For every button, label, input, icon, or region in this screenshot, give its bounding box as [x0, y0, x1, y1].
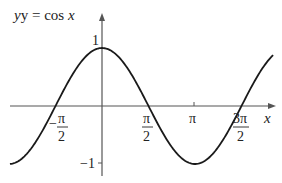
svg-text:3π: 3π	[233, 111, 247, 126]
svg-text:2: 2	[143, 129, 150, 144]
y-tick-neg1: −1	[80, 156, 95, 171]
x-tick-three-pi-half: 3π 2	[233, 111, 249, 144]
svg-text:2: 2	[58, 129, 65, 144]
x-tick-pi-half: π 2	[142, 111, 153, 144]
x-axis-arrow-icon	[268, 103, 276, 109]
svg-text:π: π	[58, 111, 65, 126]
x-axis-label: x	[263, 110, 271, 126]
x-tick-pi: π	[189, 111, 196, 126]
y-axis-arrow-icon	[99, 13, 105, 21]
svg-text:−: −	[49, 116, 57, 131]
graph-title: yy = cos x	[12, 7, 75, 23]
svg-text:2: 2	[237, 129, 244, 144]
y-tick-1: 1	[92, 33, 99, 48]
cosine-graph: yy = cos x x 1 −1 − π 2 π 2 π 3π 2	[0, 0, 282, 183]
x-tick-neg-pi-half: − π 2	[49, 111, 68, 144]
svg-text:π: π	[143, 111, 150, 126]
